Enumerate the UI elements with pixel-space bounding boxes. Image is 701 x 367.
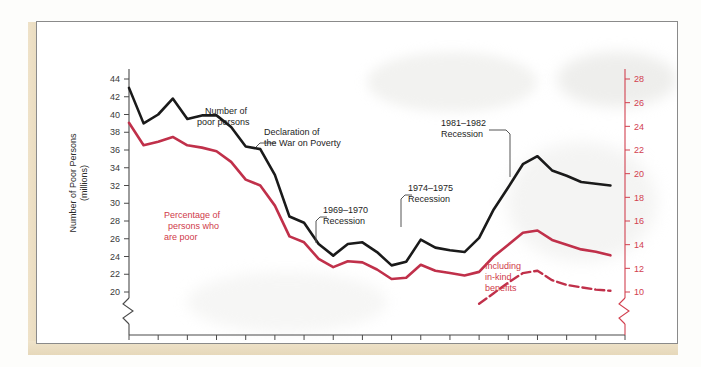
y-tick-label-right: 12 bbox=[634, 264, 644, 274]
y-tick-label-left: 42 bbox=[110, 92, 120, 102]
y-tick-label-left: 40 bbox=[110, 110, 120, 120]
y-tick-label-left: 24 bbox=[110, 252, 120, 262]
y-tick-label-right: 20 bbox=[634, 169, 644, 179]
annotation-declaration-line1: Declaration of bbox=[264, 127, 320, 137]
annotation-number-poor-line1: Number of bbox=[205, 106, 248, 116]
y-axis-left-label-line2: (millions) bbox=[79, 165, 89, 201]
series-line-percentage-of-persons-who-are-poor bbox=[129, 123, 610, 279]
y-tick-label-left: 36 bbox=[110, 145, 120, 155]
annotation-inkind-line2: in-kind bbox=[485, 272, 512, 282]
line-chart-plot: 2022242628303234363840424410121416182022… bbox=[37, 22, 677, 343]
annotation-inkind-line3: benefits bbox=[485, 283, 517, 293]
y-axis-left-label-line1: Number of Poor Persons bbox=[68, 133, 78, 232]
annotation-inkind-line1: Including bbox=[485, 261, 521, 271]
annotation-number-poor-line2: poor persons bbox=[197, 117, 250, 127]
y-axis-left-break bbox=[123, 298, 133, 324]
annotation-declaration-line2: the War on Poverty bbox=[264, 138, 341, 148]
y-tick-label-left: 32 bbox=[110, 181, 120, 191]
y-tick-label-left: 26 bbox=[110, 234, 120, 244]
y-tick-label-left: 22 bbox=[110, 269, 120, 279]
y-tick-label-left: 44 bbox=[110, 74, 120, 84]
y-tick-label-left: 28 bbox=[110, 216, 120, 226]
y-axis-right-break bbox=[619, 298, 629, 324]
y-tick-label-right: 16 bbox=[634, 216, 644, 226]
y-tick-label-right: 24 bbox=[634, 122, 644, 132]
y-tick-label-right: 18 bbox=[634, 193, 644, 203]
y-tick-label-left: 30 bbox=[110, 198, 120, 208]
annotation-percentage-line1: Percentage of bbox=[164, 210, 221, 220]
chart-page: 2022242628303234363840424410121416182022… bbox=[0, 0, 701, 367]
annotation-rec7475-line2: Recession bbox=[408, 194, 450, 204]
annotation-rec8182-line2: Recession bbox=[441, 129, 483, 139]
y-tick-label-left: 20 bbox=[110, 287, 120, 297]
annotation-rec6970-line2: Recession bbox=[323, 216, 365, 226]
annotation-percentage-line3: are poor bbox=[164, 232, 198, 242]
chart-frame: 2022242628303234363840424410121416182022… bbox=[36, 21, 678, 344]
y-tick-label-left: 34 bbox=[110, 163, 120, 173]
y-tick-label-right: 14 bbox=[634, 240, 644, 250]
y-tick-label-right: 10 bbox=[634, 287, 644, 297]
y-tick-label-right: 28 bbox=[634, 74, 644, 84]
annotation-rec8182-line1: 1981–1982 bbox=[441, 118, 486, 128]
y-axis-left-label: Number of Poor Persons (millions) bbox=[68, 103, 90, 263]
annotation-rec7475-line1: 1974–1975 bbox=[408, 183, 453, 193]
series-line-number-of-poor-persons bbox=[129, 88, 610, 266]
annotation-percentage-line2: persons who bbox=[168, 221, 219, 231]
annotation-rec6970-line1: 1969–1970 bbox=[323, 205, 368, 215]
y-tick-label-left: 38 bbox=[110, 127, 120, 137]
y-tick-label-right: 22 bbox=[634, 145, 644, 155]
leader-recession-1981-1982 bbox=[489, 130, 510, 177]
y-tick-label-right: 26 bbox=[634, 98, 644, 108]
